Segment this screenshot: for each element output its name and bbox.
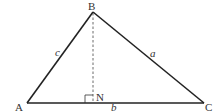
side-label-a: a (150, 47, 156, 59)
side-c-line (27, 12, 93, 103)
vertex-label-C: C (205, 101, 212, 112)
vertex-label-A: A (15, 101, 23, 112)
foot-label-N: N (96, 91, 104, 103)
side-a-line (93, 12, 204, 103)
triangle-svg: B A C N c a b (0, 0, 219, 112)
side-label-b: b (111, 101, 117, 112)
right-angle-marker (85, 95, 93, 103)
side-label-c: c (55, 46, 60, 58)
triangle-diagram: B A C N c a b (0, 0, 219, 112)
vertex-label-B: B (88, 0, 95, 12)
